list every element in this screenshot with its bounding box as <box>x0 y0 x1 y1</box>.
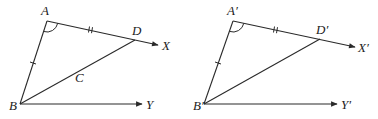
label-c: C <box>75 70 84 85</box>
label-d: D <box>131 23 142 38</box>
label-a-prime: A′ <box>226 3 238 18</box>
congruence-diagram: A B C D X Y A′ B′ D′ X′ Y′ <box>0 0 378 119</box>
label-y-prime: Y′ <box>341 97 351 112</box>
segment-a-prime-b-prime <box>204 21 233 104</box>
figure-right: A′ B′ D′ X′ Y′ <box>193 3 369 113</box>
label-x: X <box>161 38 171 53</box>
label-x-prime: X′ <box>357 40 369 55</box>
label-a: A <box>40 3 49 18</box>
segment-b-prime-d-prime <box>204 39 320 104</box>
diagram-svg: A B C D X Y A′ B′ D′ X′ Y′ <box>0 0 378 119</box>
label-d-prime: D′ <box>315 22 328 37</box>
ray-a-prime-x-prime <box>233 21 355 47</box>
figure-left: A B C D X Y <box>9 3 171 113</box>
label-y: Y <box>146 97 155 112</box>
label-b-prime: B′ <box>193 98 204 113</box>
label-b: B <box>9 98 17 113</box>
